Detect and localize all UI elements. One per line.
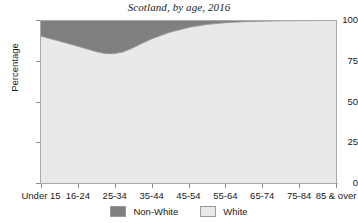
- legend-swatch: [110, 206, 126, 217]
- x-axis-tick-mark: [299, 184, 300, 188]
- y-axis-tick-label: 50: [326, 97, 358, 106]
- legend: Non-WhiteWhite: [0, 206, 358, 217]
- x-axis-tick-mark: [152, 184, 153, 188]
- y-axis-tick-mark: [36, 102, 40, 103]
- y-axis-tick-label: 75: [326, 56, 358, 65]
- x-axis-tick-mark: [41, 184, 42, 188]
- plot-area: [41, 20, 337, 183]
- legend-label: White: [223, 206, 247, 217]
- y-axis-tick-label: 25: [326, 137, 358, 146]
- legend-item[interactable]: White: [200, 206, 247, 217]
- y-axis-line: [40, 20, 41, 184]
- y-axis-tick-mark: [36, 183, 40, 184]
- legend-label: Non-White: [133, 206, 178, 217]
- plot-svg: [41, 20, 337, 183]
- y-axis-tick-label: 100: [326, 15, 358, 24]
- x-axis-tick-mark: [189, 184, 190, 188]
- legend-swatch: [200, 206, 216, 217]
- legend-item[interactable]: Non-White: [110, 206, 178, 217]
- x-axis-tick-mark: [225, 184, 226, 188]
- chart-title: Scotland, by age, 2016: [0, 0, 358, 14]
- x-axis-tick-mark: [78, 184, 79, 188]
- x-axis-tick-mark: [262, 184, 263, 188]
- y-axis-tick-mark: [36, 142, 40, 143]
- y-axis-tick-label: 0: [326, 178, 358, 187]
- y-axis-tick-mark: [36, 61, 40, 62]
- area-chart: Scotland, by age, 2016 Percentage 025507…: [0, 0, 358, 223]
- y-axis-title: Percentage: [9, 28, 20, 108]
- y-axis-tick-mark: [36, 20, 40, 21]
- x-axis-tick-mark: [115, 184, 116, 188]
- x-axis-tick-mark: [336, 184, 337, 188]
